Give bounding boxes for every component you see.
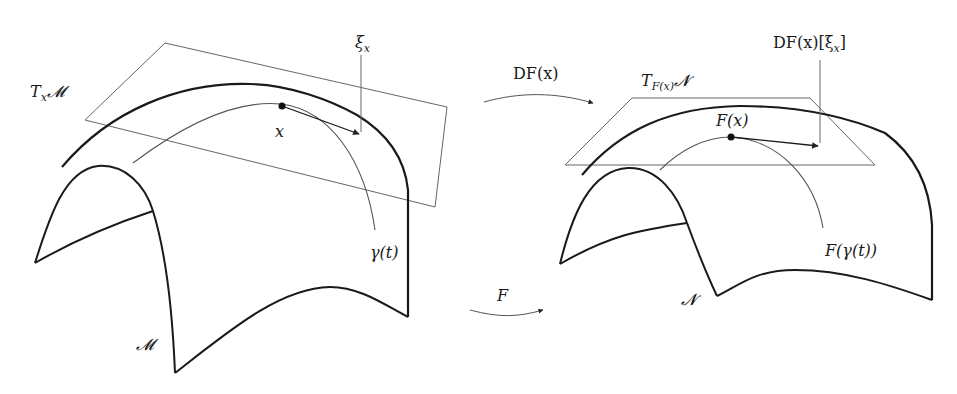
right-outer-arch — [582, 106, 932, 300]
left-tangent-space-label: Tx𝓜 — [30, 84, 65, 100]
right-manifold-group — [560, 60, 932, 300]
label-T: T — [641, 71, 652, 90]
left-bottom-edge — [175, 287, 408, 373]
label-manifold: 𝓜 — [47, 82, 65, 101]
right-point-fx — [728, 134, 735, 141]
left-curve-label: γ(t) — [370, 245, 398, 261]
map-label: F — [497, 288, 508, 304]
label-sub: x — [834, 42, 840, 55]
right-bottom-edge — [717, 270, 932, 300]
right-tangent-plane — [565, 98, 875, 165]
right-inner-edge — [560, 223, 687, 264]
right-tangent-vector — [731, 137, 818, 146]
differential-arrow — [484, 95, 593, 103]
label-manifold: 𝓝 — [674, 71, 689, 90]
map-arrow — [470, 310, 543, 316]
left-manifold-group — [35, 43, 447, 373]
right-vector-label: DF(x)[ξx] — [773, 35, 846, 51]
label-dfx: DF(x)[ξ — [773, 33, 834, 52]
left-tangent-plane — [85, 43, 447, 207]
left-outer-arch — [62, 84, 408, 317]
right-tangent-space-label: TF(x)𝓝 — [641, 73, 689, 89]
label-T: T — [30, 82, 41, 101]
left-inner-arch — [35, 166, 175, 373]
left-point-label: x — [275, 124, 284, 140]
left-inner-edge — [35, 211, 153, 263]
label-sub: x — [41, 91, 47, 104]
right-curve-label: F(γ(t)) — [825, 243, 877, 259]
differential-label: DF(x) — [513, 66, 558, 82]
right-point-label: F(x) — [716, 113, 749, 129]
label-close-bracket: ] — [840, 33, 846, 52]
right-manifold-label: 𝓝 — [681, 292, 696, 308]
left-manifold-label: 𝓜 — [136, 337, 154, 353]
label-xi: ξ — [355, 33, 364, 52]
left-point-x — [279, 103, 286, 110]
label-sub: x — [364, 42, 370, 55]
left-vector-label: ξx — [355, 35, 370, 51]
label-sub: F(x) — [652, 80, 674, 93]
left-curve-gamma — [133, 103, 375, 230]
